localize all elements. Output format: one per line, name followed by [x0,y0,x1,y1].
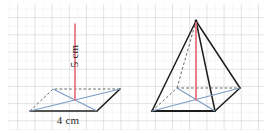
geometry-figure: 5 cm 4 cm [0,0,272,133]
right-apex-vertex [195,20,198,23]
height-label-left: 5 cm [68,45,80,68]
geometry-canvas: 5 cm 4 cm [0,0,272,133]
base-label-left: 4 cm [57,114,80,126]
